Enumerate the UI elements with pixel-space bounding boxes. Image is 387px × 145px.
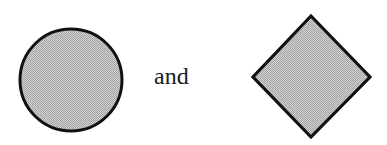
shaded-circle-shape (20, 29, 122, 131)
shaded-diamond-shape (253, 16, 370, 137)
shapes-figure (0, 0, 387, 145)
conjunction-text: and (154, 62, 189, 90)
